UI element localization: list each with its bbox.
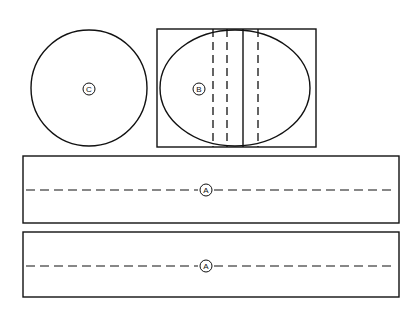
view-c-group[interactable]: C: [31, 30, 147, 146]
technical-drawing-canvas: C B A A: [0, 0, 420, 316]
section-lines-b: [213, 29, 258, 147]
view-b-group[interactable]: B: [157, 29, 316, 147]
circle-outline-b: [160, 30, 310, 146]
callout-label-b: B: [196, 85, 201, 94]
view-a-upper-group[interactable]: A: [23, 156, 399, 223]
drawing-svg: C B A A: [0, 0, 420, 316]
callout-label-a-upper: A: [203, 186, 209, 195]
view-a-lower-group[interactable]: A: [23, 232, 399, 297]
callout-label-a-lower: A: [203, 262, 209, 271]
callout-label-c: C: [86, 85, 92, 94]
rectangle-outline-b: [157, 29, 316, 147]
